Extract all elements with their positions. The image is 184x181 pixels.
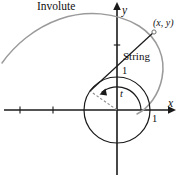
string-label: String xyxy=(123,51,150,62)
involute-figure: Involute String (x, y) y x 1 1 t xyxy=(0,0,184,181)
y-axis-label: y xyxy=(122,5,127,17)
involute-curve xyxy=(2,14,163,114)
involute-label: Involute xyxy=(37,1,75,13)
x-axis-label: x xyxy=(168,98,173,110)
point-xy-marker xyxy=(152,30,156,34)
y-unit-label: 1 xyxy=(122,66,127,77)
angle-t-label: t xyxy=(120,89,123,100)
point-xy-label: (x, y) xyxy=(153,18,174,28)
y-axis-arrowhead xyxy=(113,2,121,10)
x-unit-label: 1 xyxy=(152,114,157,125)
